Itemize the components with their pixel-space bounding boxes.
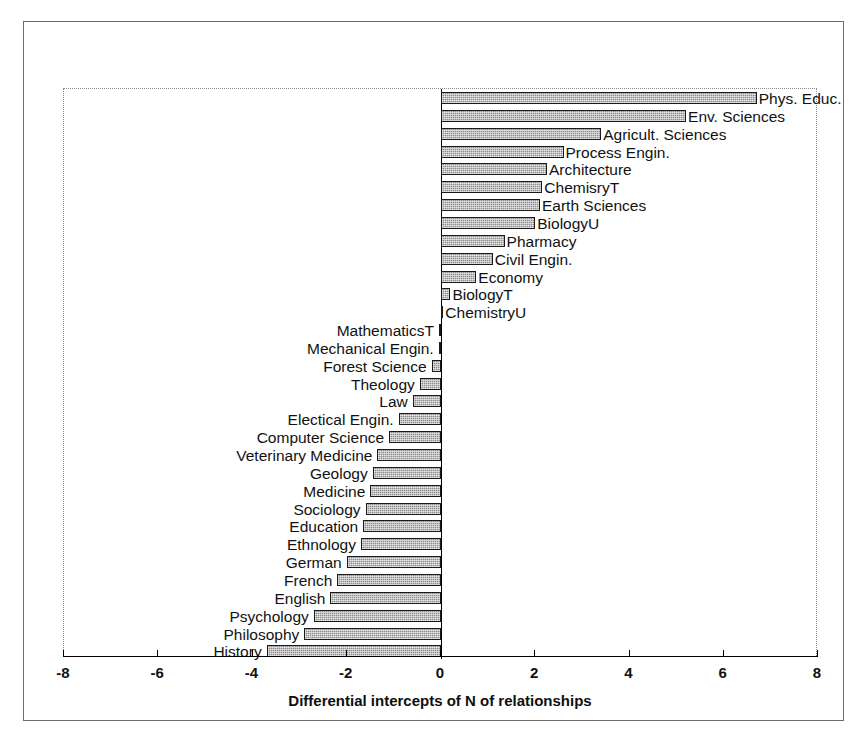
bar <box>441 110 686 122</box>
bar <box>347 556 441 568</box>
bar-label: Pharmacy <box>507 234 577 250</box>
bar-label: History <box>213 644 261 660</box>
bar-row: Forest Science <box>64 360 816 372</box>
bar-label: Law <box>379 394 407 410</box>
bar-label: Computer Science <box>257 430 385 446</box>
bar-label: Theology <box>351 377 415 393</box>
bar <box>314 610 441 622</box>
bar-row: Medicine <box>64 485 816 497</box>
bar-row: Veterinary Medicine <box>64 449 816 461</box>
bar-label: French <box>284 573 332 589</box>
x-axis-tick <box>63 650 64 657</box>
bar-row: MathematicsT <box>64 324 816 336</box>
bar-row: Geology <box>64 467 816 479</box>
bar-label: ChemisryT <box>544 180 619 196</box>
x-axis-tick-label: -2 <box>339 664 352 681</box>
x-axis-title: Differential intercepts of N of relation… <box>63 692 817 709</box>
bar <box>441 217 535 229</box>
bar-row: Law <box>64 395 816 407</box>
bar-row: Earth Sciences <box>64 199 816 211</box>
bar-label: Forest Science <box>323 359 426 375</box>
x-axis-tick-label: 8 <box>813 664 821 681</box>
bar-row: Phys. Educ. <box>64 92 816 104</box>
bar-label: Earth Sciences <box>542 198 646 214</box>
bar <box>330 592 441 604</box>
bar <box>441 146 564 158</box>
x-axis-tick <box>723 650 724 657</box>
x-axis-tick <box>629 650 630 657</box>
bar <box>366 503 441 515</box>
bar-label: German <box>286 555 342 571</box>
bar <box>439 342 441 354</box>
bar-label: Electical Engin. <box>288 412 394 428</box>
plot-area: Phys. Educ.Env. SciencesAgricult. Scienc… <box>63 88 817 656</box>
bar-label: Civil Engin. <box>495 252 573 268</box>
bar <box>420 378 441 390</box>
bar <box>389 431 441 443</box>
bar-label: Philosophy <box>224 627 300 643</box>
bar-row: Mechanical Engin. <box>64 342 816 354</box>
x-axis-tick <box>534 650 535 657</box>
bar <box>337 574 441 586</box>
bar-label: BiologyU <box>537 216 599 232</box>
bar <box>441 306 443 318</box>
bar-row: Architecture <box>64 163 816 175</box>
bar-row: Psychology <box>64 610 816 622</box>
bar-label: Mechanical Engin. <box>307 341 434 357</box>
bar-label: Education <box>289 519 358 535</box>
bar-row: Computer Science <box>64 431 816 443</box>
bar-label: Sociology <box>293 502 360 518</box>
bar-label: Process Engin. <box>566 145 670 161</box>
bar <box>439 324 441 336</box>
bar <box>441 288 450 300</box>
bar-row: Agricult. Sciences <box>64 128 816 140</box>
bar-row: ChemistryU <box>64 306 816 318</box>
bar-row: BiologyU <box>64 217 816 229</box>
bar <box>441 163 547 175</box>
bar-label: Phys. Educ. <box>759 91 842 107</box>
bar-label: Ethnology <box>287 537 356 553</box>
bar <box>441 271 476 283</box>
bar-row: Pharmacy <box>64 235 816 247</box>
x-axis-tick-label: 6 <box>719 664 727 681</box>
bar-row: Electical Engin. <box>64 413 816 425</box>
bar <box>399 413 441 425</box>
bar <box>361 538 441 550</box>
x-axis-tick-label: -6 <box>151 664 164 681</box>
bar-label: Geology <box>310 466 368 482</box>
bar-row: BiologyT <box>64 288 816 300</box>
bar-row: Sociology <box>64 503 816 515</box>
x-axis-tick-label: -8 <box>56 664 69 681</box>
bar-label: Agricult. Sciences <box>603 127 726 143</box>
figure-page: Phys. Educ.Env. SciencesAgricult. Scienc… <box>0 0 867 743</box>
bar <box>441 253 493 265</box>
bar-label: English <box>274 591 325 607</box>
bar-row: German <box>64 556 816 568</box>
x-axis-tick-label: -4 <box>245 664 258 681</box>
bar-label: Psychology <box>230 609 309 625</box>
x-axis-tick <box>817 650 818 657</box>
bar <box>413 395 441 407</box>
bar <box>441 92 757 104</box>
bar <box>441 235 505 247</box>
bar-row: French <box>64 574 816 586</box>
bar <box>304 628 441 640</box>
bar <box>363 520 441 532</box>
bar-row: Env. Sciences <box>64 110 816 122</box>
bar-row: Process Engin. <box>64 146 816 158</box>
bar <box>373 467 441 479</box>
bar-row: Philosophy <box>64 628 816 640</box>
bar <box>377 449 441 461</box>
bar-row: Education <box>64 520 816 532</box>
bar <box>441 181 542 193</box>
bar <box>441 128 601 140</box>
x-axis-tick-label: 2 <box>530 664 538 681</box>
bar-label: ChemistryU <box>445 305 526 321</box>
bar-row: Economy <box>64 271 816 283</box>
bar-label: Env. Sciences <box>688 109 785 125</box>
x-axis-tick <box>346 650 347 657</box>
x-axis-tick-label: 0 <box>436 664 444 681</box>
x-axis-tick-label: 4 <box>624 664 632 681</box>
x-axis-tick <box>252 650 253 657</box>
bar-label: MathematicsT <box>337 323 434 339</box>
